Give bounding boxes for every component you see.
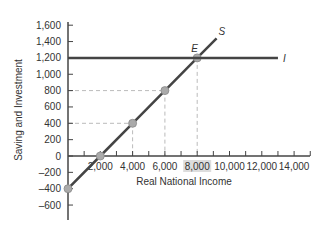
y-tick-label: –600 [39,200,62,211]
y-tick-label: 0 [55,151,61,162]
saving-investment-chart: 1,6001,4001,2001,0008006004002000–200–40… [0,0,322,229]
x-axis-title: Real National Income [136,176,232,187]
y-tick-label: –400 [39,183,62,194]
y-tick-label: 200 [44,134,61,145]
x-tick-label: 12,000 [247,161,278,172]
x-tick-label: 14,000 [279,161,310,172]
series-label-s: S [219,26,226,37]
y-axis-title: Saving and Investment [13,59,24,161]
y-tick-label: 600 [44,101,61,112]
y-tick-label: 800 [44,85,61,96]
data-point [64,185,72,193]
y-tick-label: 1,400 [36,36,61,47]
x-tick-label: 8,000 [185,161,210,172]
y-tick-label: –200 [39,167,62,178]
y-tick-label: 1,600 [36,20,61,31]
series-label-i: I [283,53,286,64]
data-point [96,152,104,160]
equilibrium-label: E [191,43,198,54]
x-tick-label: 10,000 [214,161,245,172]
x-tick-label: 4,000 [120,161,145,172]
y-tick-label: 400 [44,118,61,129]
data-point [129,119,137,127]
y-tick-label: 1,000 [36,69,61,80]
data-point [161,87,169,95]
x-tick-label: 6,000 [152,161,177,172]
y-tick-label: 1,200 [36,52,61,63]
